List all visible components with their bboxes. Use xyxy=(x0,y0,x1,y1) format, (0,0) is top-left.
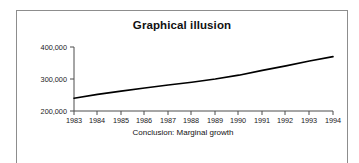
x-axis-label-1985: 1985 xyxy=(113,116,129,125)
y-axis-label-200000: 200,000 xyxy=(41,107,67,116)
x-axis-label-1989: 1989 xyxy=(207,116,223,125)
line-chart-svg: 400,000 300,000 200,000 1983 1984 xyxy=(17,11,348,163)
x-axis-group: 1983 1984 1985 1986 1987 1988 1989 1990 … xyxy=(66,111,341,125)
y-axis-label-300000: 300,000 xyxy=(41,75,67,84)
data-series-line xyxy=(74,57,333,99)
x-axis-label-1986: 1986 xyxy=(136,116,152,125)
x-axis-label-1994: 1994 xyxy=(325,116,341,125)
chart-plot-area: 400,000 300,000 200,000 1983 1984 xyxy=(17,11,348,163)
x-axis-label-1992: 1992 xyxy=(277,116,293,125)
x-axis-label-1993: 1993 xyxy=(301,116,317,125)
x-axis-label-1991: 1991 xyxy=(254,116,270,125)
figure-frame: Graphical illusion 400,000 300,000 200,0… xyxy=(16,10,348,163)
x-axis-label-1990: 1990 xyxy=(230,116,246,125)
y-axis-group: 400,000 300,000 200,000 xyxy=(41,43,74,116)
x-axis-label-1987: 1987 xyxy=(160,116,176,125)
x-axis-label-1983: 1983 xyxy=(66,116,82,125)
chart-caption: Conclusion: Marginal growth xyxy=(17,128,348,137)
x-axis-label-1984: 1984 xyxy=(89,116,105,125)
x-axis-label-1988: 1988 xyxy=(183,116,199,125)
y-axis-label-400000: 400,000 xyxy=(41,43,67,52)
